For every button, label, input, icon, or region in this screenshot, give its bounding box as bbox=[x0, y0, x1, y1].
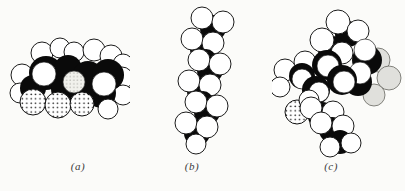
atom-sphere-h bbox=[272, 77, 290, 97]
atom-sphere-s bbox=[63, 71, 85, 93]
atom-sphere-h bbox=[341, 133, 361, 153]
atom-sphere-h bbox=[206, 95, 228, 117]
atom-sphere-h bbox=[178, 70, 200, 92]
atom-sphere-h bbox=[188, 49, 210, 71]
atom-sphere-h bbox=[209, 53, 231, 75]
atom-sphere-h bbox=[185, 91, 207, 113]
panel-label-c: (c) bbox=[324, 160, 338, 172]
panel-label-b: (b) bbox=[185, 160, 199, 172]
atom-sphere-o bbox=[45, 92, 71, 118]
atom-sphere-o bbox=[70, 92, 94, 116]
atom-sphere-h bbox=[212, 11, 234, 33]
molecule-c-spacefill-model bbox=[272, 4, 405, 159]
molecular-models-figure: (a) (b) (c) bbox=[0, 0, 405, 191]
atom-sphere-w bbox=[32, 62, 56, 86]
atom-sphere-h bbox=[175, 112, 197, 134]
molecule-a-spacefill-model bbox=[8, 36, 130, 128]
atom-sphere-h bbox=[310, 28, 334, 52]
atom-sphere-h bbox=[320, 137, 340, 157]
atom-sphere-h bbox=[98, 99, 118, 119]
molecule-b-spacefill-model bbox=[152, 4, 247, 156]
atom-sphere-h bbox=[181, 28, 203, 50]
atom-sphere-o bbox=[20, 89, 46, 115]
atom-sphere-h bbox=[186, 134, 206, 154]
atom-sphere-w bbox=[92, 72, 116, 96]
atom-sphere-w bbox=[333, 71, 355, 93]
atom-sphere-h bbox=[310, 112, 332, 134]
atom-sphere-h bbox=[191, 7, 213, 29]
panel-label-a: (a) bbox=[71, 160, 85, 172]
atom-sphere-w bbox=[354, 39, 376, 61]
